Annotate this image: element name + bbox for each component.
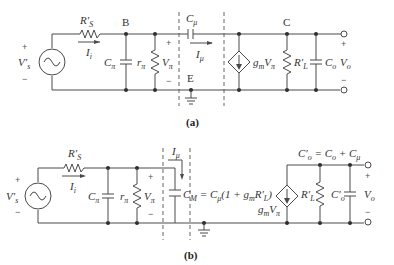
source-minus: −: [22, 74, 27, 84]
node-c-label: C: [283, 16, 290, 28]
rl-label-b: R′L: [300, 188, 315, 203]
cpi-label-b: Cπ: [88, 190, 100, 205]
ii-label-b: Ii: [69, 180, 76, 195]
ac-source-icon: [39, 49, 65, 75]
source-plus: +: [22, 42, 27, 52]
vpi-label: Vπ: [162, 56, 174, 71]
co-prime-equation: C′o = Co + Cμ: [298, 147, 360, 162]
wire-a-bottom: [52, 76, 340, 90]
cm-equation: CM = Cμ(1 + gmR′L): [183, 188, 272, 203]
wire-a-src-top: [52, 34, 80, 48]
output-terminal-bottom: [341, 87, 347, 93]
rpi-label-b: rπ: [120, 190, 129, 205]
svg-text:+: +: [15, 175, 20, 185]
ii-label: Ii: [85, 46, 92, 61]
imu-label-b: Iμ: [171, 145, 180, 160]
panel-b: + V′s − R′S Ii Cπ rπ + Vπ − Iμ CM = Cμ(1…: [6, 145, 375, 262]
svg-text:+: +: [365, 171, 370, 181]
resistor-rpi-icon: [133, 184, 141, 208]
output-terminal-top: [365, 162, 371, 168]
source-label-b: V′s: [6, 190, 18, 205]
wire-b-bottom: [38, 210, 364, 223]
rl-label: R′L: [293, 56, 308, 71]
vo-label-b: Vo: [364, 188, 375, 203]
cmu-label: Cμ: [186, 12, 197, 27]
circuit-diagram: + V′s − R′S Ii B Cπ rπ + Vπ − Cμ Iμ E: [0, 0, 394, 265]
gm-vpi-label-b: gmVπ: [258, 203, 281, 218]
resistor-rs-icon: [80, 30, 100, 38]
imu-label: Iμ: [195, 48, 204, 63]
vpi-label-b: Vπ: [144, 190, 156, 205]
source-label: V′s: [18, 56, 30, 71]
svg-text:+: +: [166, 38, 171, 48]
capacitor-co-icon: [310, 34, 322, 90]
co-label-b: C′o: [331, 188, 345, 203]
capacitor-co-prime-icon: [344, 165, 356, 223]
ground-icon: [185, 90, 197, 104]
rs-label-b: R′S: [67, 147, 81, 162]
capacitor-cmu-icon: [188, 29, 193, 39]
panel-a: + V′s − R′S Ii B Cπ rπ + Vπ − Cμ Iμ E: [18, 12, 351, 129]
resistor-rpi-icon: [151, 50, 159, 74]
capacitor-cpi-icon: [120, 34, 132, 90]
svg-text:−: −: [166, 76, 171, 86]
vo-label: Vo: [340, 56, 351, 71]
svg-text:−: −: [15, 207, 20, 217]
node-b-label: B: [122, 16, 129, 28]
resistor-rl-icon: [316, 182, 324, 206]
resistor-rl-icon: [283, 50, 291, 74]
caption-b: (b): [184, 249, 198, 262]
capacitor-cpi-icon: [102, 168, 114, 223]
rs-label: R′S: [79, 14, 93, 29]
svg-text:−: −: [365, 207, 370, 217]
rpi-label: rπ: [137, 56, 146, 71]
cpi-label: Cπ: [104, 56, 116, 71]
svg-text:+: +: [148, 172, 153, 182]
output-terminal-bottom: [365, 219, 371, 225]
capacitor-cm-icon: [169, 190, 181, 196]
node-e-label: E: [187, 72, 194, 84]
co-label: Co: [325, 56, 336, 71]
gm-vpi-label: gmVπ: [253, 56, 276, 71]
output-terminal-top: [341, 31, 347, 37]
resistor-rs-icon: [64, 164, 84, 172]
svg-text:−: −: [148, 209, 153, 219]
ground-icon: [198, 223, 210, 236]
caption-a: (a): [186, 116, 199, 129]
svg-text:−: −: [341, 75, 346, 85]
current-arrow-ii-icon: [80, 174, 86, 178]
ac-source-icon: [25, 183, 51, 209]
wire-b-top: [84, 168, 175, 190]
svg-text:+: +: [341, 39, 346, 49]
